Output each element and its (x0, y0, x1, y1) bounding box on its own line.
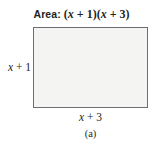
paren-close-2: ) (126, 7, 130, 21)
area-model-figure: Area: (x + 1)(x + 3) x + 1 x + 3 (a) (0, 0, 163, 153)
operator-plus-2: + (107, 7, 120, 21)
rectangle-width-label: x + 3 (33, 111, 148, 124)
width-operator-plus: + (84, 111, 96, 123)
area-expression: (x + 1)(x + 3) (61, 7, 130, 21)
width-constant: 3 (96, 111, 102, 123)
rectangle-height-label: x + 1 (0, 61, 31, 74)
rectangle-shape (33, 27, 148, 108)
operator-plus-1: + (74, 7, 87, 21)
area-rectangle (33, 27, 148, 108)
area-label: Area: (33, 8, 60, 20)
figure-title: Area: (x + 1)(x + 3) (0, 7, 163, 21)
height-constant: 1 (25, 61, 31, 73)
figure-caption: (a) (33, 128, 148, 140)
height-operator-plus: + (13, 61, 25, 73)
